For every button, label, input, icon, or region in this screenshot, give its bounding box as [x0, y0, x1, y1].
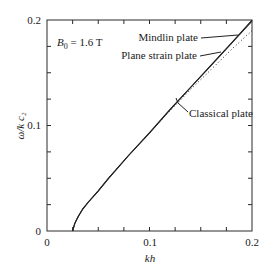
label-classical-plate: Classical plate — [189, 107, 253, 119]
dispersion-chart: 0 0.1 0.2 0 0.1 0.2 kh ω/k c₂ B0 = 1.6 T… — [0, 0, 272, 272]
field-annotation: B0 = 1.6 T — [57, 36, 103, 51]
x-axis-label: kh — [145, 252, 156, 264]
y-tick-label-0: 0 — [36, 225, 42, 237]
label-mindlin-plate: Mindlin plate — [138, 31, 198, 43]
y-tick-label-0.2: 0.2 — [27, 14, 41, 26]
label-plane-strain-plate: Plane strain plate — [121, 49, 197, 61]
leader-classical — [176, 98, 188, 112]
leader-plane-strain — [200, 52, 221, 56]
y-tick-label-0.1: 0.1 — [27, 119, 41, 131]
leader-mindlin — [201, 35, 238, 38]
x-tick-label-0: 0 — [44, 236, 50, 248]
x-tick-label-0.1: 0.1 — [143, 236, 157, 248]
x-tick-label-0.2: 0.2 — [245, 236, 259, 248]
y-axis-label: ω/k c₂ — [14, 112, 26, 139]
